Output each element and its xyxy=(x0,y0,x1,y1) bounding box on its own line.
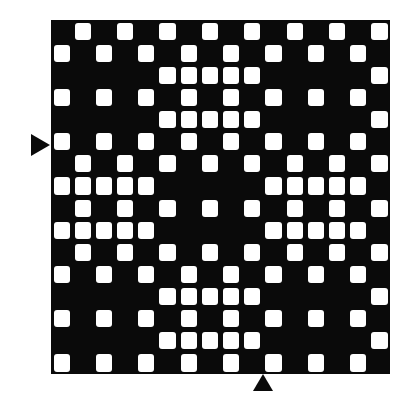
grid-cell-r13-c12 xyxy=(308,310,324,327)
grid-cell-r5-c6 xyxy=(181,133,197,150)
grid-cell-r7-c13 xyxy=(329,177,345,194)
grid-cell-r5-c10 xyxy=(265,133,281,150)
grid-cell-r10-c5 xyxy=(159,244,175,261)
grid-cell-r7-c12 xyxy=(308,177,324,194)
grid-cell-r6-c11 xyxy=(287,155,303,172)
pattern-grid xyxy=(51,20,390,374)
grid-cell-r9-c10 xyxy=(265,222,281,239)
grid-cell-r9-c0 xyxy=(54,222,70,239)
grid-cell-r15-c12 xyxy=(308,354,324,371)
grid-cell-r11-c6 xyxy=(181,266,197,283)
grid-cell-r14-c6 xyxy=(181,332,197,349)
grid-cell-r7-c14 xyxy=(350,177,366,194)
grid-cell-r10-c9 xyxy=(244,244,260,261)
grid-cell-r14-c15 xyxy=(371,332,387,349)
grid-cell-r9-c12 xyxy=(308,222,324,239)
grid-cell-r3-c0 xyxy=(54,89,70,106)
grid-cell-r8-c7 xyxy=(202,200,218,217)
grid-cell-r14-c8 xyxy=(223,332,239,349)
grid-cell-r1-c10 xyxy=(265,45,281,62)
grid-cell-r14-c9 xyxy=(244,332,260,349)
grid-cell-r9-c13 xyxy=(329,222,345,239)
grid-cell-r0-c1 xyxy=(75,23,91,40)
grid-cell-r0-c5 xyxy=(159,23,175,40)
grid-cell-r3-c6 xyxy=(181,89,197,106)
grid-cell-r2-c15 xyxy=(371,67,387,84)
grid-cell-r7-c10 xyxy=(265,177,281,194)
grid-cell-r4-c5 xyxy=(159,111,175,128)
grid-cell-r8-c13 xyxy=(329,200,345,217)
grid-cell-r13-c10 xyxy=(265,310,281,327)
grid-cell-r4-c7 xyxy=(202,111,218,128)
grid-cell-r5-c14 xyxy=(350,133,366,150)
grid-cell-r13-c8 xyxy=(223,310,239,327)
grid-cell-r11-c10 xyxy=(265,266,281,283)
grid-cell-r7-c4 xyxy=(138,177,154,194)
grid-cell-r9-c1 xyxy=(75,222,91,239)
grid-cell-r8-c5 xyxy=(159,200,175,217)
grid-cell-r3-c14 xyxy=(350,89,366,106)
grid-cell-r3-c8 xyxy=(223,89,239,106)
grid-cell-r0-c7 xyxy=(202,23,218,40)
grid-cell-r10-c15 xyxy=(371,244,387,261)
grid-cell-r2-c9 xyxy=(244,67,260,84)
grid-cell-r6-c9 xyxy=(244,155,260,172)
grid-cell-r7-c2 xyxy=(96,177,112,194)
grid-cell-r9-c2 xyxy=(96,222,112,239)
grid-cell-r7-c1 xyxy=(75,177,91,194)
grid-cell-r0-c13 xyxy=(329,23,345,40)
grid-cell-r13-c14 xyxy=(350,310,366,327)
grid-cell-r2-c5 xyxy=(159,67,175,84)
grid-cell-r0-c3 xyxy=(117,23,133,40)
grid-cell-r12-c15 xyxy=(371,288,387,305)
grid-cell-r13-c0 xyxy=(54,310,70,327)
grid-cell-r9-c14 xyxy=(350,222,366,239)
grid-cell-r3-c4 xyxy=(138,89,154,106)
grid-cell-r11-c8 xyxy=(223,266,239,283)
grid-cell-r10-c13 xyxy=(329,244,345,261)
grid-cell-r3-c12 xyxy=(308,89,324,106)
grid-cell-r2-c8 xyxy=(223,67,239,84)
grid-cell-r12-c7 xyxy=(202,288,218,305)
grid-cell-r6-c7 xyxy=(202,155,218,172)
grid-cell-r0-c11 xyxy=(287,23,303,40)
grid-cell-r5-c8 xyxy=(223,133,239,150)
grid-cell-r1-c4 xyxy=(138,45,154,62)
grid-cell-r13-c2 xyxy=(96,310,112,327)
grid-cell-r2-c7 xyxy=(202,67,218,84)
grid-cell-r8-c11 xyxy=(287,200,303,217)
grid-cell-r5-c0 xyxy=(54,133,70,150)
grid-cell-r4-c8 xyxy=(223,111,239,128)
grid-cell-r3-c2 xyxy=(96,89,112,106)
grid-cell-r8-c9 xyxy=(244,200,260,217)
grid-cell-r11-c14 xyxy=(350,266,366,283)
grid-cell-r11-c2 xyxy=(96,266,112,283)
grid-cell-r7-c3 xyxy=(117,177,133,194)
grid-cell-r1-c2 xyxy=(96,45,112,62)
grid-cell-r6-c3 xyxy=(117,155,133,172)
grid-cell-r10-c11 xyxy=(287,244,303,261)
grid-cell-r12-c5 xyxy=(159,288,175,305)
grid-cell-r10-c1 xyxy=(75,244,91,261)
grid-cell-r0-c15 xyxy=(371,23,387,40)
grid-cell-r10-c3 xyxy=(117,244,133,261)
row-marker-arrow-icon xyxy=(31,134,50,156)
grid-cell-r15-c0 xyxy=(54,354,70,371)
grid-cell-r8-c15 xyxy=(371,200,387,217)
grid-cell-r5-c4 xyxy=(138,133,154,150)
grid-cell-r6-c15 xyxy=(371,155,387,172)
grid-cell-r4-c15 xyxy=(371,111,387,128)
grid-cell-r11-c0 xyxy=(54,266,70,283)
grid-cell-r1-c12 xyxy=(308,45,324,62)
grid-cell-r12-c6 xyxy=(181,288,197,305)
grid-cell-r15-c10 xyxy=(265,354,281,371)
grid-cell-r8-c3 xyxy=(117,200,133,217)
grid-cell-r11-c4 xyxy=(138,266,154,283)
grid-cell-r13-c6 xyxy=(181,310,197,327)
grid-cell-r6-c5 xyxy=(159,155,175,172)
grid-cell-r4-c9 xyxy=(244,111,260,128)
grid-cell-r15-c2 xyxy=(96,354,112,371)
grid-cell-r14-c7 xyxy=(202,332,218,349)
grid-cell-r1-c14 xyxy=(350,45,366,62)
column-marker-arrow-icon xyxy=(253,374,273,391)
